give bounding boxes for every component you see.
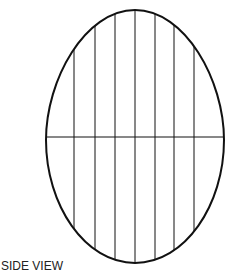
grid-lines [40,0,230,276]
caption-side-view: SIDE VIEW [1,259,63,273]
egg-diagram [0,0,233,276]
